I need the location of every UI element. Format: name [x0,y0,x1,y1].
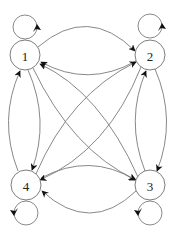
self-loop-2 [138,14,166,38]
edge-4-to-2 [36,62,136,174]
edge-2-to-3 [155,69,167,171]
edge-3-to-1 [40,64,138,177]
node-2: 2 [135,40,165,70]
self-loop-4 [10,201,38,225]
edge-1-to-4 [28,70,40,170]
edge-1-to-2 [38,26,135,51]
node-label: 2 [147,49,154,64]
arrowhead-icon [33,24,41,32]
edge-1-to-3 [33,68,136,180]
arrowhead-icon [134,208,142,216]
state-transition-diagram: 1 2 3 4 [0,0,176,237]
edge-2-to-4 [40,67,141,180]
edge-4-to-1 [8,71,20,171]
node-label: 3 [147,179,154,194]
node-label: 4 [23,179,30,194]
node-4: 4 [11,170,41,200]
node-1: 1 [10,40,40,70]
arrowhead-icon [10,208,18,216]
edge-3-to-2 [135,71,146,171]
arrowhead-icon [158,23,166,31]
self-loop-3 [134,201,162,225]
node-label: 1 [22,49,29,64]
edge-3-to-4 [42,191,136,213]
node-3: 3 [135,170,165,200]
self-loop-1 [13,15,41,39]
